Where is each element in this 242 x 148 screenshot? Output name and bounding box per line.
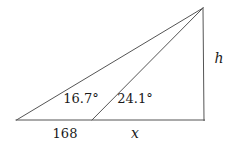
far-line-of-sight xyxy=(17,8,204,120)
angle-label-near: 24.1° xyxy=(117,92,152,105)
height-label: h xyxy=(214,51,223,65)
base-length-label-unknown: x xyxy=(131,126,139,140)
height-line xyxy=(203,8,204,121)
base-length-label-known: 168 xyxy=(53,127,78,140)
triangle-geometry xyxy=(16,8,205,121)
angle-label-far: 16.7° xyxy=(63,92,98,105)
triangle-diagram-figure: 16.7° 24.1° 168 x h xyxy=(0,0,242,148)
triangle-diagram-svg xyxy=(0,0,242,148)
